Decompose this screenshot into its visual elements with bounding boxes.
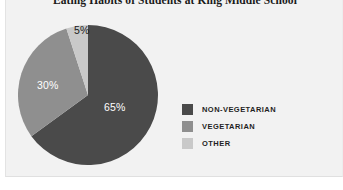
pie-chart xyxy=(18,25,158,165)
pie-label-other: 5% xyxy=(74,24,90,36)
legend-item-non-vegetarian: NON-VEGETARIAN xyxy=(182,101,332,118)
pie-label-vegetarian: 30% xyxy=(37,79,59,91)
legend-item-other: OTHER xyxy=(182,135,332,152)
legend-swatch-other xyxy=(182,138,193,149)
legend-label-other: OTHER xyxy=(202,139,231,148)
legend-swatch-vegetarian xyxy=(182,121,193,132)
legend-label-vegetarian: VEGETARIAN xyxy=(202,122,255,131)
pie-label-non-vegetarian: 65% xyxy=(104,101,126,113)
pie-chart-svg xyxy=(18,25,158,165)
legend-item-vegetarian: VEGETARIAN xyxy=(182,118,332,135)
legend-swatch-non-vegetarian xyxy=(182,104,193,115)
chart-title: Eating Habits of Students at King Middle… xyxy=(6,0,343,6)
legend-label-non-vegetarian: NON-VEGETARIAN xyxy=(202,105,276,114)
chart-legend: NON-VEGETARIAN VEGETARIAN OTHER xyxy=(182,101,332,152)
chart-panel: Eating Habits of Students at King Middle… xyxy=(5,0,343,177)
